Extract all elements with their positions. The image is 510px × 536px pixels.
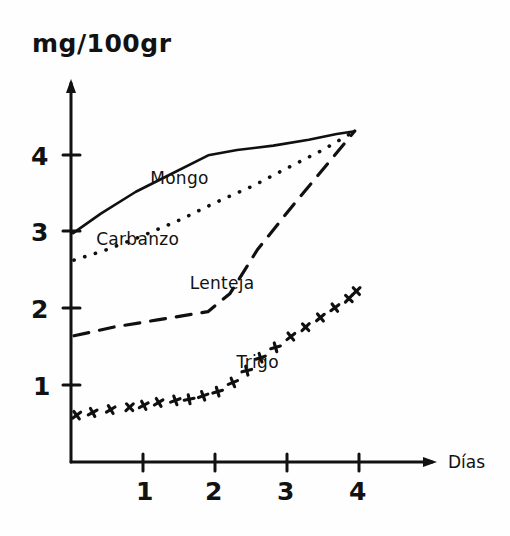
series-trigo <box>70 284 363 422</box>
series-label-mongo: Mongo <box>150 168 209 188</box>
y-axis-title: mg/100gr <box>32 29 172 58</box>
series-label-carbanzo: Carbanzo <box>96 229 179 249</box>
x-axis-title: Días <box>448 452 485 472</box>
data-point-marker <box>123 400 137 414</box>
y-tick-label-4: 4 <box>31 142 48 171</box>
series-mongo <box>73 131 355 233</box>
data-point-marker <box>183 394 195 405</box>
y-tick-label-3: 3 <box>31 218 48 247</box>
x-tick-label-2: 2 <box>205 477 222 506</box>
chart-canvas: mg/100gr Días 4 3 2 1 1 2 3 <box>0 0 510 536</box>
data-point-marker <box>284 330 298 343</box>
x-axis-arrow-head <box>423 457 437 467</box>
data-point-marker <box>227 376 240 388</box>
series-label-lenteja: Lenteja <box>190 273 255 293</box>
data-point-marker <box>104 403 117 416</box>
data-point-marker <box>212 386 224 398</box>
x-tick-label-3: 3 <box>277 477 294 506</box>
data-point-marker <box>86 406 99 419</box>
data-point-marker <box>299 320 313 334</box>
data-point-marker <box>328 301 342 314</box>
y-axis-arrow-head <box>66 79 76 93</box>
y-tick-group: 4 3 2 1 <box>31 142 80 401</box>
y-tick-label-2: 2 <box>31 295 48 324</box>
x-tick-label-4: 4 <box>349 477 366 506</box>
data-point-marker <box>314 311 328 324</box>
hand-drawn-chart-figure: mg/100gr Días 4 3 2 1 1 2 3 <box>0 0 510 536</box>
data-point-marker <box>169 394 182 406</box>
data-point-marker <box>137 399 150 412</box>
data-point-marker <box>152 396 165 409</box>
series-label-trigo: Trigo <box>236 352 279 372</box>
y-tick-label-1: 1 <box>33 372 50 401</box>
x-tick-label-1: 1 <box>136 477 153 506</box>
data-point-marker <box>197 390 210 402</box>
